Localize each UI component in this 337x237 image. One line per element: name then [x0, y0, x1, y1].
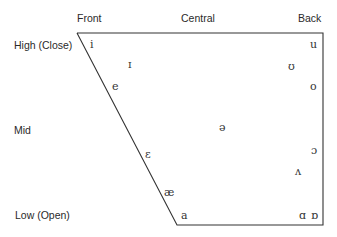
vowel-i: i	[90, 39, 94, 50]
vowel-epsilon: ɛ	[145, 149, 151, 160]
vowel-upsilon: ʊ	[288, 61, 295, 72]
vowel-u: u	[310, 39, 317, 50]
chart-outline	[77, 33, 323, 225]
vowel-e: e	[112, 81, 119, 92]
vowel-schwa: ə	[219, 122, 226, 133]
vowel-open-o: ɔ	[311, 145, 317, 156]
vowel-small-i: ɪ	[128, 59, 132, 70]
row-label-low: Low (Open)	[15, 210, 70, 221]
column-label-front: Front	[77, 13, 102, 24]
column-label-back: Back	[298, 13, 321, 24]
row-label-mid: Mid	[14, 125, 31, 136]
vowel-quadrilateral	[0, 0, 337, 237]
row-label-high: High (Close)	[14, 40, 72, 51]
vowel-turned-script-a: ɒ	[311, 210, 318, 221]
vowel-script-a: ɑ	[299, 210, 306, 221]
vowel-ash: æ	[164, 187, 174, 198]
column-label-central: Central	[181, 13, 215, 24]
vowel-a: a	[181, 210, 188, 221]
vowel-wedge: ʌ	[295, 166, 301, 177]
vowel-o: o	[310, 81, 317, 92]
